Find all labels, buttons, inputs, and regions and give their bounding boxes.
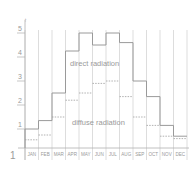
radiation-step-chart: ↑ 12345 JANFEBMARAPRMAYJUNJULAUGSEPOCTNO…	[0, 0, 191, 169]
month-label: MAY	[81, 152, 91, 157]
y-tick-label: 4	[18, 49, 22, 56]
x-axis-month-labels: JANFEBMARAPRMAYJUNJULAUGSEPOCTNOVDEC	[27, 152, 185, 157]
month-label: SEP	[135, 152, 144, 157]
direct-radiation-label: direct radiation	[70, 59, 119, 68]
month-label: APR	[68, 152, 78, 157]
month-label: AUG	[121, 152, 131, 157]
chart-canvas: ↑ 12345 JANFEBMARAPRMAYJUNJULAUGSEPOCTNO…	[0, 0, 191, 169]
y-axis-ticks: 12345	[17, 25, 25, 129]
figure-number: 1	[10, 150, 16, 161]
y-tick-label: 3	[18, 73, 22, 80]
axes: ↑	[18, 17, 189, 160]
gridlines	[25, 30, 187, 160]
diffuse-radiation-label: diffuse radiation	[72, 118, 125, 127]
y-tick-label: 5	[18, 25, 22, 32]
month-label: MAR	[54, 152, 65, 157]
month-label: OCT	[148, 152, 158, 157]
month-label: JUL	[109, 152, 118, 157]
month-label: NOV	[162, 152, 173, 157]
y-axis-arrow-icon: ↑	[24, 17, 27, 23]
month-label: DEC	[175, 152, 185, 157]
y-tick-label: 1	[18, 121, 22, 128]
month-label: JUN	[95, 152, 104, 157]
y-tick-label: 2	[18, 97, 22, 104]
month-label: FEB	[41, 152, 50, 157]
month-label: JAN	[27, 152, 36, 157]
